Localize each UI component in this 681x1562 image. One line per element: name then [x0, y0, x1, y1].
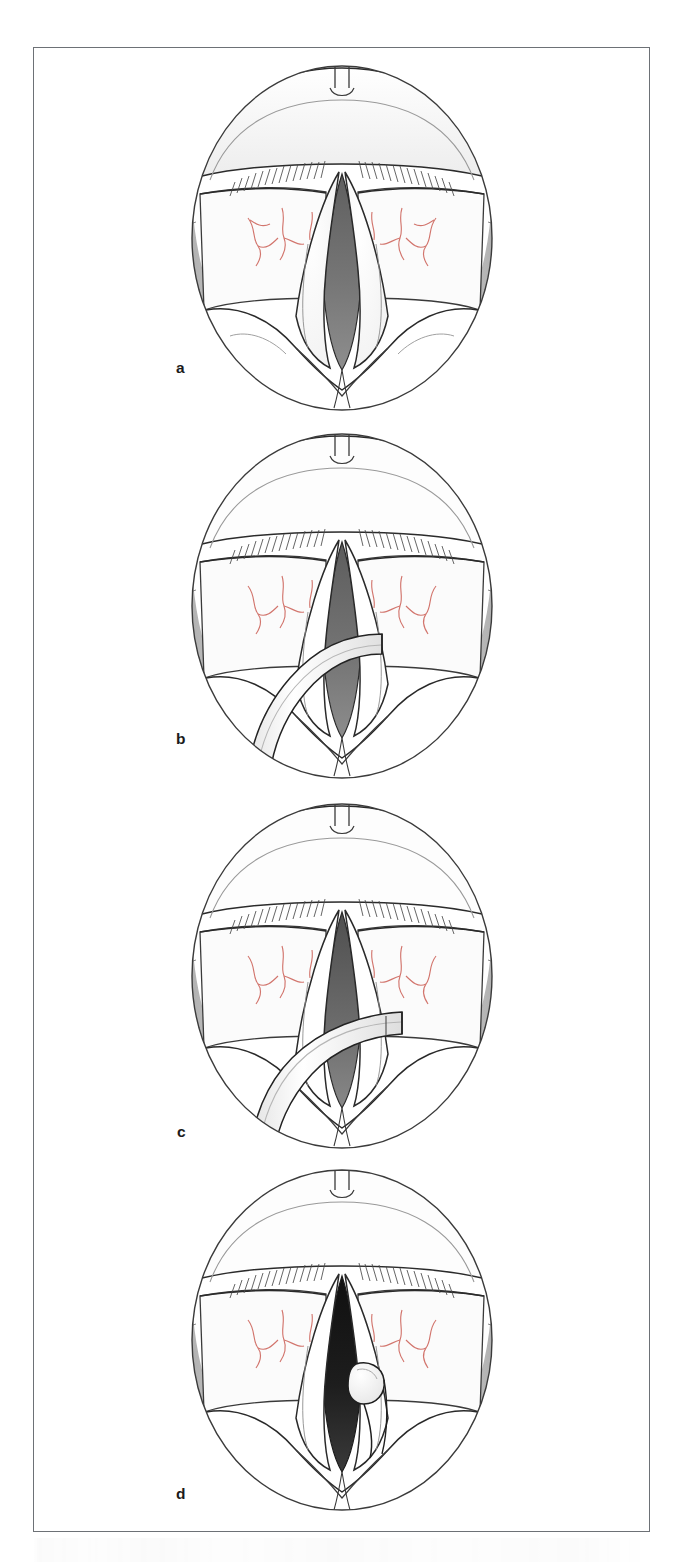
panel-c: c	[34, 786, 651, 1158]
panel-label-d: d	[176, 1486, 185, 1502]
panel-b: b	[34, 420, 651, 792]
panel-label-b: b	[176, 731, 185, 747]
panel-c-illustration	[34, 786, 651, 1158]
panel-b-illustration	[34, 420, 651, 792]
figure-frame: a	[33, 47, 650, 1532]
panel-d-illustration	[34, 1158, 651, 1533]
panel-a-illustration	[34, 48, 651, 420]
panel-a: a	[34, 48, 651, 420]
panel-d: d	[34, 1158, 651, 1533]
panel-label-c: c	[177, 1124, 186, 1140]
page-bleed-through	[33, 1538, 650, 1562]
panel-label-a: a	[176, 360, 185, 376]
